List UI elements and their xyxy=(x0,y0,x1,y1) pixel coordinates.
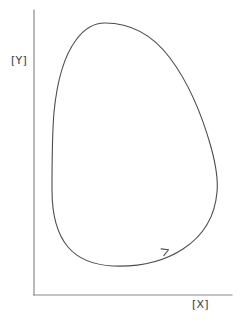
limit-cycle-curve xyxy=(52,23,217,266)
y-axis-label: [Y] xyxy=(11,55,27,67)
flow-direction-arrowhead xyxy=(161,246,170,255)
plot-svg xyxy=(0,0,241,321)
figure-canvas: [Y] [X] xyxy=(0,0,241,321)
x-axis-label: [X] xyxy=(192,299,209,311)
